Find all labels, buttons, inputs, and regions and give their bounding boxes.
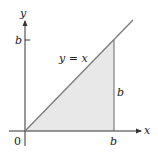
origin-label: 0 <box>14 135 21 148</box>
y-tick-label: b <box>15 34 22 47</box>
line-label: y = x <box>58 52 88 65</box>
x-axis-label: x <box>144 124 151 137</box>
side-label: b <box>117 86 124 99</box>
diagram-canvas: y x 0 b b y = x b <box>0 0 158 156</box>
x-tick-label: b <box>110 135 117 148</box>
y-axis-label: y <box>19 7 27 20</box>
